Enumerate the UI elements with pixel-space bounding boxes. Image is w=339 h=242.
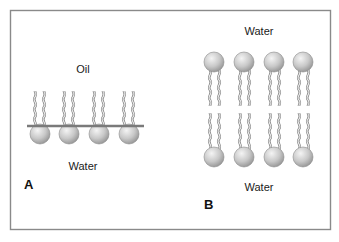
polar-head: [204, 147, 224, 167]
figure-frame: [11, 11, 331, 230]
polar-head: [293, 52, 313, 72]
panel-a-monolayer: [27, 91, 144, 144]
polar-head: [264, 147, 284, 167]
panel-b-upper-tails-inner: [209, 70, 309, 106]
polar-head: [234, 147, 254, 167]
polar-head: [204, 52, 224, 72]
panel-a-water-label: Water: [69, 161, 98, 172]
panel-b-upper-tails: [209, 70, 309, 106]
phospholipid-figure: Oil Water A Water Water B: [0, 0, 339, 242]
panel-a-tails: [34, 91, 134, 127]
polar-head: [234, 52, 254, 72]
panel-b-bottom-water-label: Water: [245, 182, 274, 193]
panel-b-lower-heads: [204, 147, 313, 167]
polar-head: [293, 147, 313, 167]
panel-b-lower-tails: [209, 113, 309, 149]
panel-b-lower-tails-inner: [209, 113, 309, 149]
panel-b-bilayer: [204, 52, 313, 167]
panel-b-top-water-label: Water: [245, 26, 274, 37]
polar-head: [264, 52, 284, 72]
panel-a-oil-label: Oil: [76, 64, 89, 75]
panel-b-letter: B: [204, 198, 213, 211]
panel-a-letter: A: [24, 178, 33, 191]
figure-canvas: [0, 0, 339, 242]
panel-a-tails-inner: [34, 91, 134, 127]
panel-b-upper-heads: [204, 52, 313, 72]
